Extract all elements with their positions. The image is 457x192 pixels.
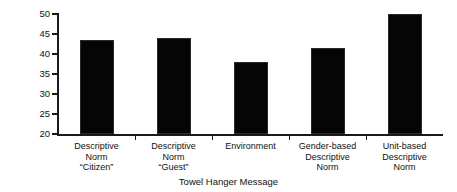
bar bbox=[311, 48, 345, 134]
y-axis-tick-label: 20 bbox=[26, 129, 50, 139]
x-axis-line bbox=[57, 134, 443, 136]
y-axis-tick-label: 25 bbox=[26, 109, 50, 119]
x-axis-tick bbox=[289, 135, 290, 140]
bar-chart-figure: Participation (%) 20253035404550 Descrip… bbox=[0, 0, 457, 192]
plot-area bbox=[58, 14, 443, 134]
x-axis-category-label: Unit-based Descriptive Norm bbox=[366, 141, 443, 173]
y-axis-tick-label: 30 bbox=[26, 89, 50, 99]
x-axis-tick bbox=[135, 135, 136, 140]
y-axis-tick-label: 40 bbox=[26, 49, 50, 59]
y-axis-tick-label: 50 bbox=[26, 9, 50, 19]
bar bbox=[388, 14, 422, 134]
y-axis-tick-label: 45 bbox=[26, 29, 50, 39]
x-axis-category-label: Descriptive Norm “Citizen” bbox=[58, 141, 135, 173]
x-axis-tick bbox=[366, 135, 367, 140]
x-axis-category-label: Descriptive Norm “Guest” bbox=[135, 141, 212, 173]
bar bbox=[80, 40, 114, 134]
bar bbox=[234, 62, 268, 134]
y-axis-tick-label: 35 bbox=[26, 69, 50, 79]
x-axis-category-label: Environment bbox=[212, 141, 289, 152]
x-axis-category-label: Gender-based Descriptive Norm bbox=[289, 141, 366, 173]
x-axis-tick bbox=[212, 135, 213, 140]
x-axis-title: Towel Hanger Message bbox=[0, 176, 457, 187]
bar bbox=[157, 38, 191, 134]
